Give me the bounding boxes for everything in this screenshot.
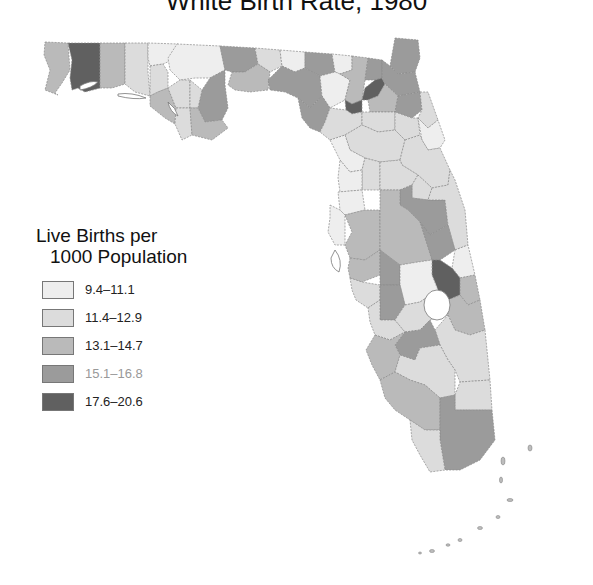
county-sumter <box>362 158 380 190</box>
county-broward-e <box>455 380 492 410</box>
legend-swatch <box>42 393 74 411</box>
legend-item: 9.4–11.1 <box>42 279 187 300</box>
legend-label: 15.1–16.8 <box>85 366 143 381</box>
legend-title-line1: Live Births per <box>36 225 187 246</box>
legend-label: 13.1–14.7 <box>85 338 143 353</box>
legend-item: 17.6–20.6 <box>42 391 187 412</box>
county-hillsborough <box>345 210 380 260</box>
legend-title-line2: 1000 Population <box>36 246 187 267</box>
legend-label: 9.4–11.1 <box>85 282 135 297</box>
county-walton <box>125 43 150 96</box>
legend-label: 17.6–20.6 <box>85 394 143 409</box>
county-nassau <box>390 38 420 74</box>
legend-swatch <box>42 365 74 383</box>
legend-title: Live Births per 1000 Population <box>36 225 187 267</box>
legend-label: 11.4–12.9 <box>85 310 142 325</box>
tampa-bay <box>331 250 340 272</box>
county-escambia <box>44 42 70 95</box>
choctawhatchee-bay <box>118 94 146 99</box>
county-okaloosa <box>100 43 125 88</box>
legend-item: 15.1–16.8 <box>42 363 187 384</box>
legend-swatch <box>42 309 74 327</box>
legend-item: 11.4–12.9 <box>42 307 187 328</box>
panhandle-counties <box>44 42 282 140</box>
legend-items: 9.4–11.1 11.4–12.9 13.1–14.7 15.1–16.8 1… <box>36 279 187 412</box>
county-baker <box>365 58 382 80</box>
lake-okeechobee <box>424 290 450 320</box>
legend-swatch <box>42 281 74 299</box>
legend-item: 13.1–14.7 <box>42 335 187 356</box>
county-gulf <box>175 108 192 140</box>
legend: Live Births per 1000 Population 9.4–11.1… <box>36 225 187 419</box>
legend-swatch <box>42 337 74 355</box>
